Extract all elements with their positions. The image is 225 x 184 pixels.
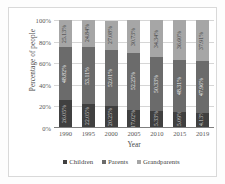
bar-stack: 25.13%48.82%26.05% bbox=[59, 20, 72, 128]
y-axis-tick-label: 0% bbox=[42, 125, 51, 132]
bar-segment-children: 17.02% bbox=[127, 110, 140, 128]
plot-area: 25.13%48.82%26.05%24.84%53.11%22.05%27.0… bbox=[54, 20, 214, 128]
x-axis-tick-label: 2005 bbox=[127, 130, 140, 141]
x-axis-line bbox=[54, 127, 214, 128]
y-axis-tick-label: 80% bbox=[39, 38, 51, 45]
bar-value-label: 17.02% bbox=[131, 110, 137, 128]
bar-stack: 27.08%52.01%20.25% bbox=[105, 20, 118, 128]
bar-value-label: 50.33% bbox=[154, 75, 160, 93]
bar-stack: 36.60%48.31%15.09% bbox=[173, 20, 186, 128]
bar-segment-grandparents: 37.91% bbox=[196, 20, 209, 61]
bar-value-label: 30.73% bbox=[131, 28, 137, 46]
bar-value-label: 53.11% bbox=[85, 67, 91, 85]
bar-segment-grandparents: 24.84% bbox=[82, 20, 95, 47]
x-axis-tick-label: 2010 bbox=[150, 130, 163, 141]
bar-value-label: 24.84% bbox=[85, 25, 91, 43]
bar-value-label: 37.91% bbox=[200, 32, 206, 50]
bar-segment-parents: 53.11% bbox=[82, 47, 95, 104]
bar-value-label: 20.25% bbox=[108, 108, 114, 126]
legend-swatch-icon bbox=[102, 160, 106, 164]
bar-segment-parents: 52.25% bbox=[127, 53, 140, 109]
y-axis-tick-label: 100% bbox=[36, 17, 51, 24]
bar-segment-grandparents: 30.73% bbox=[127, 20, 140, 53]
bar-value-label: 14.13% bbox=[200, 113, 206, 128]
x-axis-tick-label: 2019 bbox=[196, 130, 209, 141]
bar-value-label: 15.33% bbox=[154, 111, 160, 128]
bar-segment-children: 22.05% bbox=[82, 104, 95, 128]
bar-value-label: 52.25% bbox=[131, 72, 137, 90]
bar-segment-children: 20.25% bbox=[105, 106, 118, 128]
y-axis-tick-label: 20% bbox=[39, 103, 51, 110]
bar-value-label: 48.31% bbox=[177, 77, 183, 95]
legend-label: Parents bbox=[108, 158, 128, 165]
chart-image: Percentage of people 0%20%40%60%80%100% … bbox=[0, 0, 225, 184]
bar-value-label: 25.13% bbox=[63, 25, 69, 43]
bar-segment-children: 14.13% bbox=[196, 113, 209, 128]
bar-stack: 37.91%47.96%14.13% bbox=[196, 20, 209, 128]
x-axis-tick-label: 2000 bbox=[105, 130, 118, 141]
bar-value-label: 52.01% bbox=[108, 69, 114, 87]
bar-stack: 30.73%52.25%17.02% bbox=[127, 20, 140, 128]
bar-value-label: 47.96% bbox=[200, 78, 206, 96]
legend-label: Children bbox=[69, 158, 93, 165]
bar-value-label: 34.34% bbox=[154, 30, 160, 48]
legend-item[interactable]: Grandparents bbox=[137, 158, 180, 165]
legend-item[interactable]: Children bbox=[63, 158, 93, 165]
bar-segment-children: 15.33% bbox=[150, 111, 163, 128]
bar-segment-parents: 50.33% bbox=[150, 57, 163, 111]
legend-swatch-icon bbox=[137, 160, 141, 164]
bar-segment-parents: 47.96% bbox=[196, 61, 209, 113]
x-axis-tick-label: 1995 bbox=[82, 130, 95, 141]
x-axis-ticks: 1990199520002005201020152019 bbox=[54, 130, 214, 141]
bar-value-label: 26.05% bbox=[63, 105, 69, 123]
x-axis-tick-label: 2015 bbox=[173, 130, 186, 141]
bar-stack: 34.34%50.33%15.33% bbox=[150, 20, 163, 128]
y-axis-tick-label: 40% bbox=[39, 81, 51, 88]
legend-item[interactable]: Parents bbox=[102, 158, 128, 165]
bar-segment-parents: 48.31% bbox=[173, 60, 186, 112]
legend-swatch-icon bbox=[63, 160, 67, 164]
bar-stack: 24.84%53.11%22.05% bbox=[82, 20, 95, 128]
bar-value-label: 36.60% bbox=[177, 31, 183, 49]
bar-value-label: 27.08% bbox=[108, 26, 114, 44]
bar-segment-grandparents: 25.13% bbox=[59, 20, 72, 47]
legend-label: Grandparents bbox=[143, 158, 180, 165]
chart-frame: Percentage of people 0%20%40%60%80%100% … bbox=[8, 7, 217, 177]
bar-segment-grandparents: 34.34% bbox=[150, 20, 163, 57]
y-axis-tick-label: 60% bbox=[39, 60, 51, 67]
y-axis-ticks: 0%20%40%60%80%100% bbox=[27, 20, 51, 128]
bar-segment-children: 26.05% bbox=[59, 100, 72, 128]
bar-value-label: 48.82% bbox=[63, 65, 69, 83]
bar-segment-grandparents: 36.60% bbox=[173, 20, 186, 60]
chart-legend: ChildrenParentsGrandparents bbox=[19, 158, 224, 165]
bar-segment-parents: 52.01% bbox=[105, 50, 118, 106]
bar-segment-children: 15.09% bbox=[173, 112, 186, 128]
bar-value-label: 15.09% bbox=[177, 112, 183, 128]
bar-value-label: 22.05% bbox=[85, 107, 91, 125]
x-axis-tick-label: 1990 bbox=[59, 130, 72, 141]
bar-group: 25.13%48.82%26.05%24.84%53.11%22.05%27.0… bbox=[54, 20, 214, 128]
bar-segment-grandparents: 27.08% bbox=[105, 21, 118, 50]
bar-segment-parents: 48.82% bbox=[59, 47, 72, 100]
x-axis-title: Year bbox=[54, 141, 214, 149]
